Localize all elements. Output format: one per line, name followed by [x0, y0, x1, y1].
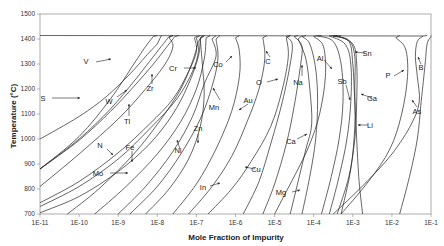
label-tl: Tl	[124, 117, 131, 126]
y-tick-label: 800	[24, 185, 35, 192]
label-ni: Ni	[174, 146, 181, 155]
label-mo: Mo	[93, 169, 103, 178]
label-n: N	[97, 141, 102, 150]
label-sn: Sn	[362, 49, 371, 58]
x-tick-label: 1E-1	[424, 219, 438, 226]
label-mn: Mn	[209, 103, 219, 112]
label-o: O	[256, 78, 262, 87]
label-fe: Fe	[126, 143, 135, 152]
y-tick-label: 1300	[21, 60, 36, 67]
label-cr: Cr	[169, 64, 177, 73]
y-tick-label: 1500	[21, 10, 36, 17]
y-tick-label: 900	[24, 160, 35, 167]
x-tick-label: 1E-2	[385, 219, 399, 226]
x-axis-ticks: 1E-111E-101E-91E-81E-71E-61E-51E-41E-31E…	[32, 214, 439, 226]
x-tick-label: 1E-7	[190, 219, 204, 226]
label-na: Na	[293, 78, 303, 87]
label-al: Al	[317, 54, 324, 63]
chart: 700800900100011001200130014001500 1E-111…	[0, 0, 444, 246]
label-c: C	[265, 57, 271, 66]
y-axis-title: Temperature (°C)	[9, 83, 18, 148]
label-as: As	[413, 107, 422, 116]
label-s: S	[40, 94, 45, 103]
x-tick-label: 1E-10	[70, 219, 88, 226]
y-tick-label: 1100	[21, 110, 35, 117]
label-zn: Zn	[194, 124, 203, 133]
label-ca: Ca	[286, 137, 296, 146]
label-au: Au	[243, 96, 252, 105]
x-tick-label: 1E-6	[229, 219, 243, 226]
x-tick-label: 1E-4	[307, 219, 321, 226]
y-axis-ticks: 700800900100011001200130014001500	[21, 10, 40, 217]
x-axis-title: Mole Fraction of Impurity	[188, 233, 284, 242]
label-p: P	[385, 71, 390, 80]
label-ga: Ga	[367, 94, 378, 103]
x-tick-label: 1E-9	[111, 219, 125, 226]
label-v: V	[83, 57, 88, 66]
label-zr: Zr	[146, 84, 154, 93]
x-tick-label: 1E-5	[268, 219, 282, 226]
x-tick-label: 1E-11	[32, 219, 49, 226]
x-tick-label: 1E-3	[346, 219, 360, 226]
label-w: W	[105, 97, 113, 106]
label-sb: Sb	[337, 77, 346, 86]
label-mg: Mg	[276, 188, 286, 197]
label-li: Li	[367, 121, 373, 130]
y-tick-label: 700	[24, 210, 35, 217]
label-b: B	[418, 63, 423, 72]
y-tick-label: 1200	[21, 85, 36, 92]
label-in: In	[200, 183, 206, 192]
label-cu: Cu	[251, 165, 261, 174]
x-tick-label: 1E-8	[150, 219, 164, 226]
y-tick-label: 1000	[21, 135, 36, 142]
label-co: Co	[213, 60, 223, 69]
y-tick-label: 1400	[21, 35, 36, 42]
